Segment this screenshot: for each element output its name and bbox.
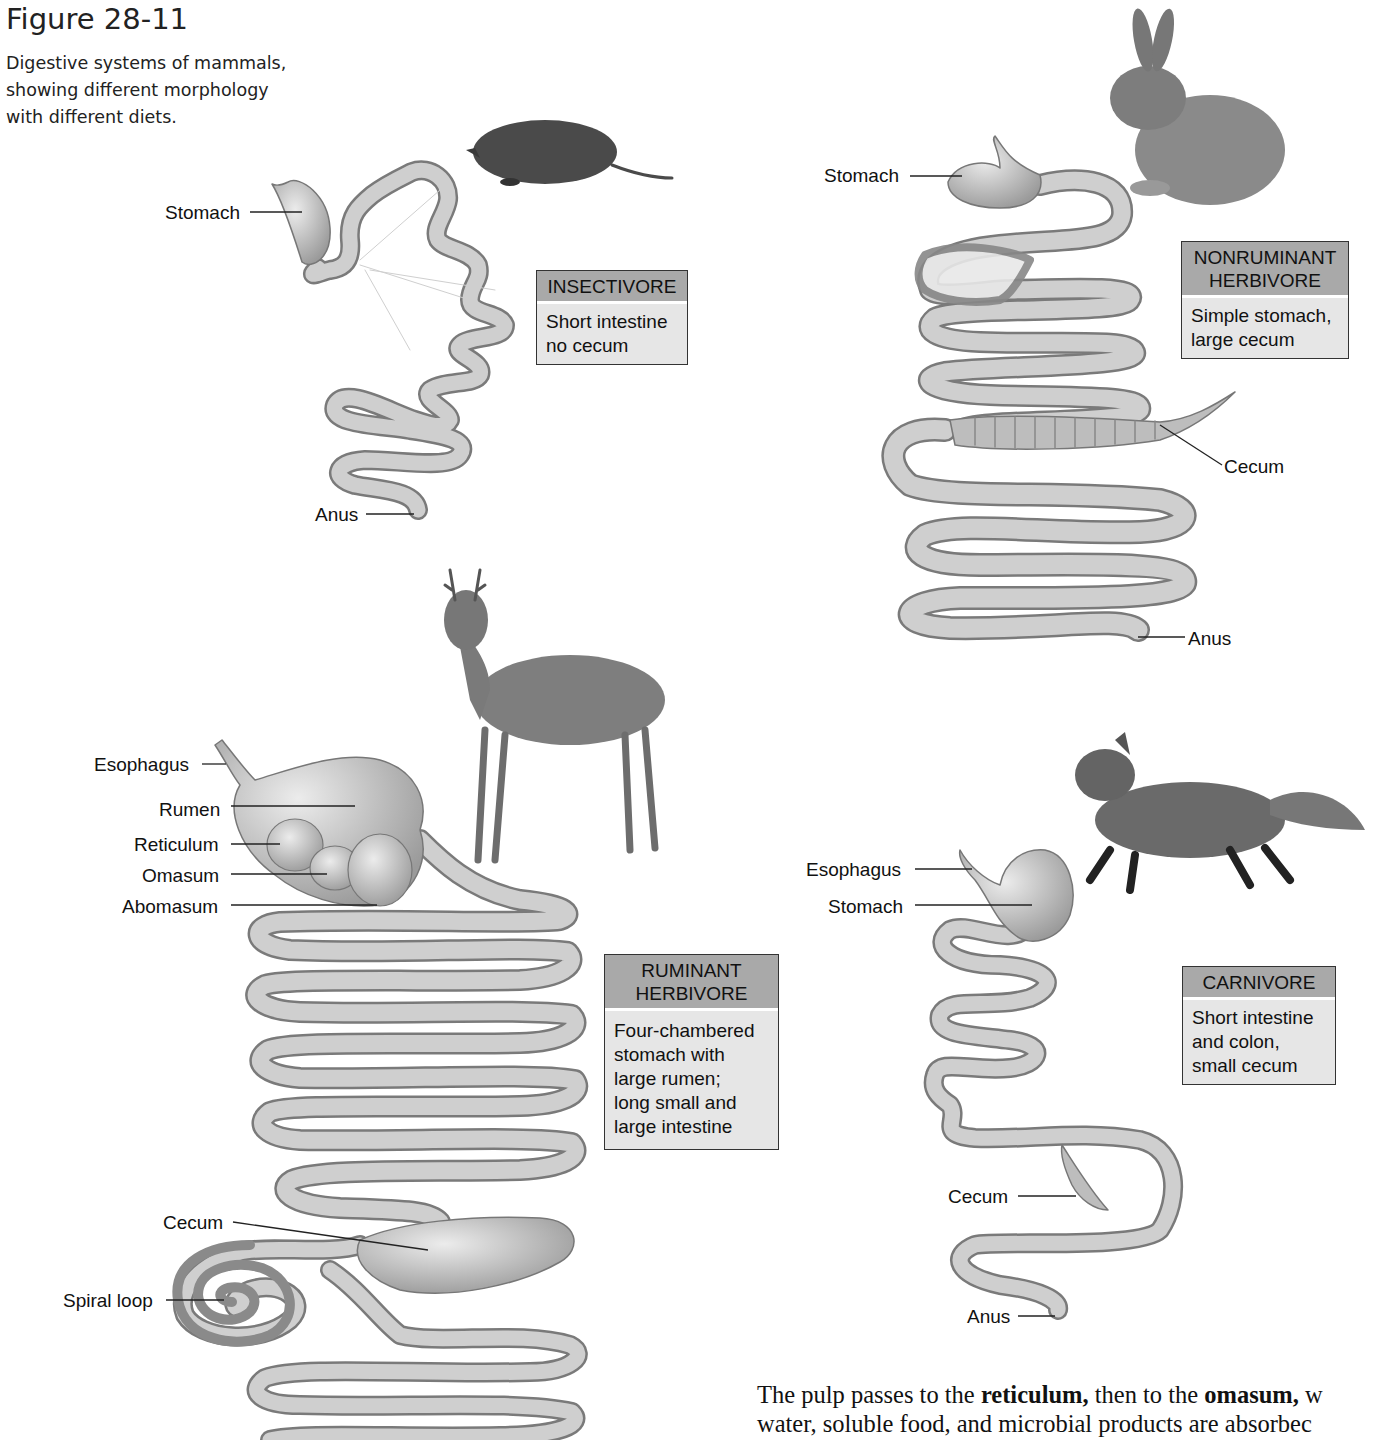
carnivore-cecum-label: Cecum xyxy=(948,1186,1008,1208)
ruminant-cecum-label: Cecum xyxy=(163,1212,223,1234)
body-line-1: The pulp passes to the reticulum, then t… xyxy=(757,1380,1323,1409)
box-title-line: HERBIVORE xyxy=(611,982,772,1005)
carnivore-box: CARNIVORE Short intestine and colon, sma… xyxy=(1182,966,1336,1085)
insectivore-box-title: INSECTIVORE xyxy=(537,271,687,304)
term-omasum: omasum, xyxy=(1204,1381,1299,1408)
box-line: large rumen; xyxy=(614,1067,770,1091)
box-line: Four-chambered xyxy=(614,1019,770,1043)
mole-icon xyxy=(466,120,672,186)
carnivore-esophagus-label: Esophagus xyxy=(806,859,901,881)
insectivore-anus-label: Anus xyxy=(315,504,358,526)
ruminant-abomasum-label: Abomasum xyxy=(122,896,218,918)
ruminant-box: RUMINANT HERBIVORE Four-chambered stomac… xyxy=(604,954,779,1150)
carnivore-anus-label: Anus xyxy=(967,1306,1010,1328)
insectivore-stomach-label: Stomach xyxy=(165,202,240,224)
box-line: and colon, xyxy=(1192,1030,1327,1054)
carnivore-gut xyxy=(934,850,1173,1310)
term-reticulum: reticulum, xyxy=(981,1381,1089,1408)
ruminant-stomach xyxy=(215,740,423,906)
rabbit-stomach xyxy=(948,136,1041,208)
box-line: small cecum xyxy=(1192,1054,1327,1078)
deer-icon xyxy=(444,570,665,860)
body-line-2: water, soluble food, and microbial produ… xyxy=(757,1409,1323,1438)
nonruminant-box: NONRUMINANT HERBIVORE Simple stomach, la… xyxy=(1181,241,1349,359)
nonruminant-anus-label: Anus xyxy=(1188,628,1231,650)
insectivore-box: INSECTIVORE Short intestine no cecum xyxy=(536,270,688,365)
ruminant-spiral-loop-label: Spiral loop xyxy=(63,1290,153,1312)
box-line: stomach with xyxy=(614,1043,770,1067)
ruminant-esophagus-label: Esophagus xyxy=(94,754,189,776)
text-run: The pulp passes to the xyxy=(757,1381,981,1408)
nonruminant-cecum-label: Cecum xyxy=(1224,456,1284,478)
box-line: large cecum xyxy=(1191,328,1340,352)
nonruminant-stomach-label: Stomach xyxy=(824,165,899,187)
ruminant-reticulum-label: Reticulum xyxy=(134,834,218,856)
box-line: Short intestine xyxy=(546,310,679,334)
ruminant-cecum xyxy=(357,1217,574,1293)
box-title-line: RUMINANT xyxy=(611,959,772,982)
box-title-line: HERBIVORE xyxy=(1188,269,1342,292)
insectivore-stomach xyxy=(272,181,330,265)
box-line: Simple stomach, xyxy=(1191,304,1340,328)
fox-icon xyxy=(1075,732,1365,890)
box-line: long small and xyxy=(614,1091,770,1115)
nonruminant-gut xyxy=(893,136,1235,630)
text-run: w xyxy=(1299,1381,1323,1408)
box-line: large intestine xyxy=(614,1115,770,1139)
text-run: then to the xyxy=(1089,1381,1205,1408)
ruminant-rumen-label: Rumen xyxy=(159,799,220,821)
ruminant-gut xyxy=(177,740,577,1440)
rabbit-icon xyxy=(1110,7,1285,205)
body-paragraph: The pulp passes to the reticulum, then t… xyxy=(757,1380,1323,1438)
carnivore-box-title: CARNIVORE xyxy=(1183,967,1335,1000)
insectivore-gut xyxy=(272,170,505,510)
box-line: no cecum xyxy=(546,334,679,358)
box-line: Short intestine xyxy=(1192,1006,1327,1030)
box-title-line: NONRUMINANT xyxy=(1188,246,1342,269)
carnivore-cecum xyxy=(1062,1145,1108,1210)
carnivore-stomach-label: Stomach xyxy=(828,896,903,918)
ruminant-omasum-label: Omasum xyxy=(142,865,219,887)
